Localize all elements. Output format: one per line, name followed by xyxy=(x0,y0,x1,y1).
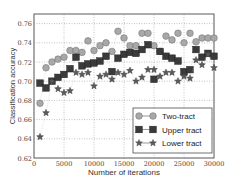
legend-label: Two-tract xyxy=(162,112,196,121)
y-tick-label: 0.68 xyxy=(18,97,32,105)
y-tick-label: 0.76 xyxy=(18,20,32,28)
accuracy-chart: 0.620.640.660.680.700.720.740.76 0500010… xyxy=(0,0,231,182)
y-axis-label: Classification accuracy xyxy=(8,48,17,125)
y-tick-label: 0.64 xyxy=(18,135,32,143)
y-tick-label: 0.72 xyxy=(18,59,32,67)
x-axis-ticks: 050001000015000200002500030000 xyxy=(32,160,224,168)
x-tick-label: 15000 xyxy=(114,160,135,168)
y-tick-label: 0.62 xyxy=(18,155,32,163)
x-tick-label: 30000 xyxy=(204,160,225,168)
x-tick-label: 0 xyxy=(32,160,36,168)
legend-label: Lower tract xyxy=(162,139,202,148)
legend-label: Upper tract xyxy=(162,126,202,135)
x-tick-label: 20000 xyxy=(144,160,165,168)
y-tick-label: 0.70 xyxy=(18,78,32,86)
y-tick-label: 0.66 xyxy=(18,116,32,124)
x-tick-label: 25000 xyxy=(174,160,195,168)
x-axis-label: Number of iterations xyxy=(88,168,160,177)
y-tick-label: 0.74 xyxy=(18,39,32,47)
x-tick-label: 10000 xyxy=(84,160,105,168)
y-axis-ticks: 0.620.640.660.680.700.720.740.76 xyxy=(18,20,32,162)
x-tick-label: 5000 xyxy=(56,160,73,168)
legend: Two-tractUpper tractLower tract xyxy=(133,108,212,153)
